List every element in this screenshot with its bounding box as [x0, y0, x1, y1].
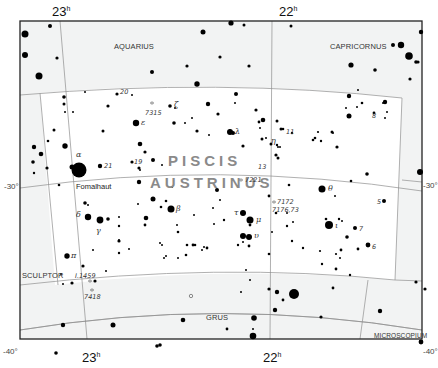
constellation-microscopium: MICROSCOPIUM — [374, 332, 427, 339]
label-11: 11 — [286, 128, 294, 136]
label-upsilon: υ — [254, 231, 259, 240]
label-ngc7221: 7221 — [245, 176, 262, 184]
label-gamma: γ — [96, 226, 101, 235]
label-19: 19 — [134, 158, 142, 166]
label-5: 5 — [377, 198, 381, 206]
label-theta: θ — [328, 184, 333, 193]
dec-label-left-40: -40° — [3, 347, 18, 356]
label-iota: ι — [335, 221, 338, 230]
label-ngc7418: 7418 — [84, 293, 101, 301]
constellation-capricornus: CAPRICORNUS — [330, 42, 387, 51]
star-name-fomalhaut: Fomalhaut — [76, 182, 111, 191]
label-ngc7176: 7176,73 — [272, 206, 299, 214]
label-lambda: λ — [235, 127, 240, 136]
label-ic1459: I.1459 — [75, 272, 96, 280]
constellation-aquarius: AQUARIUS — [114, 42, 154, 51]
constellation-label-line1: PISCIS — [168, 152, 241, 169]
label-tau: τ — [234, 208, 238, 217]
constellation-sculptor: SCULPTOR — [22, 271, 64, 280]
dec-label-right-30: -30° — [423, 181, 438, 190]
ra-label-top-right: 22h — [279, 4, 297, 19]
dec-label-left-30: -30° — [4, 182, 19, 191]
constellation-grus: GRUS — [206, 313, 228, 322]
label-delta: δ — [76, 210, 81, 219]
ra-label-bottom-left: 23h — [82, 350, 100, 365]
label-7: 7 — [359, 225, 363, 233]
label-ngc7172: 7172 — [277, 198, 294, 206]
ra-label-bottom-right: 22h — [263, 350, 281, 365]
label-zeta: ζ — [174, 100, 178, 109]
label-alpha: α — [76, 150, 81, 159]
ra-label-top-left: 23h — [52, 4, 70, 19]
label-epsilon: ε — [141, 118, 145, 127]
label-mu: μ — [256, 215, 261, 224]
label-21: 21 — [104, 162, 112, 170]
label-13: 13 — [258, 163, 266, 171]
label-8: 8 — [372, 112, 376, 120]
star-fomalhaut — [72, 163, 87, 178]
label-beta: β — [176, 204, 181, 213]
label-pi: π — [71, 251, 76, 260]
label-ngc7315: 7315 — [145, 109, 162, 117]
label-6: 6 — [372, 243, 376, 251]
dec-label-right-40: -40° — [423, 347, 438, 356]
label-20: 20 — [120, 88, 128, 96]
label-eta: η — [271, 136, 276, 145]
